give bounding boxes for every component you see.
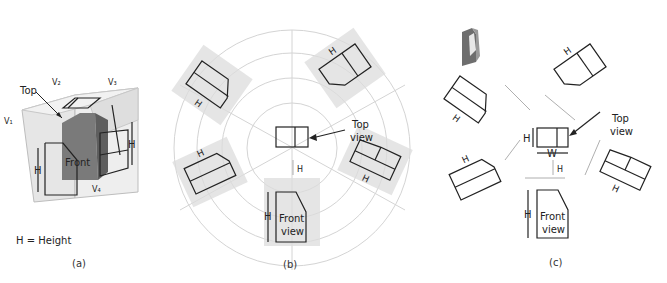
label-v2: V₂ xyxy=(52,78,61,87)
auxiliary-views-diagram: V₁ V₂ V₃ V₄ Top Front H H H = Height (a)… xyxy=(0,0,667,283)
panel-c-fold-lines xyxy=(505,85,600,178)
height-legend: H = Height xyxy=(16,235,71,246)
object-solid xyxy=(62,113,98,180)
svg-text:view: view xyxy=(281,226,304,237)
label-v4: V₄ xyxy=(92,185,101,194)
caption-a: (a) xyxy=(72,258,86,269)
svg-text:H: H xyxy=(562,45,573,57)
svg-text:Front: Front xyxy=(540,211,565,222)
panel-c-front-view: H Front view H xyxy=(524,160,568,238)
svg-text:H: H xyxy=(610,183,620,195)
label-top: Top xyxy=(19,85,37,96)
svg-text:H: H xyxy=(523,133,531,144)
svg-text:H: H xyxy=(297,165,303,174)
panel-a-glass-box: V₁ V₂ V₃ V₄ Top Front H H xyxy=(4,78,138,202)
svg-text:Top: Top xyxy=(611,113,629,124)
label-v3: V₃ xyxy=(108,78,117,87)
label-front: Front xyxy=(65,157,90,168)
svg-text:H: H xyxy=(451,112,462,124)
svg-text:W: W xyxy=(547,148,557,159)
dim-h-right: H xyxy=(128,139,136,150)
panel-b-top-view: Top view xyxy=(276,119,373,147)
caption-b: (b) xyxy=(283,259,297,270)
svg-text:view: view xyxy=(610,126,633,137)
caption-c: (c) xyxy=(549,257,562,268)
svg-text:H: H xyxy=(264,211,272,222)
svg-text:Front: Front xyxy=(279,213,304,224)
dim-h-left: H xyxy=(34,165,42,176)
svg-text:view: view xyxy=(350,132,373,143)
label-v1: V₁ xyxy=(4,117,13,126)
svg-text:H: H xyxy=(524,209,532,220)
svg-text:Top: Top xyxy=(351,119,369,130)
svg-text:H: H xyxy=(460,153,470,165)
svg-text:H: H xyxy=(557,165,563,174)
panel-c-pictorial-icon xyxy=(462,28,480,66)
svg-text:view: view xyxy=(542,224,565,235)
